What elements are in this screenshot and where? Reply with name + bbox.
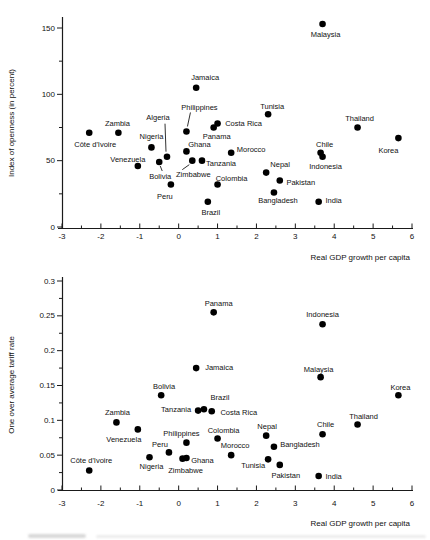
point-label-panama: Panama: [203, 132, 232, 141]
x-tick-label: 5: [371, 499, 376, 508]
x-axis-title: Real GDP growth per capita: [311, 253, 411, 262]
data-point-pakistan: [276, 462, 283, 469]
point-label-peru: Peru: [152, 440, 168, 449]
point-label-colombia: Colombia: [216, 174, 249, 183]
leader-line-algeria: [165, 124, 166, 152]
point-label-jamaica: Jamaica: [205, 363, 234, 372]
point-label-philippines: Philippines: [163, 429, 200, 438]
data-point-malaysia: [317, 374, 324, 381]
y-tick-label: 0.15: [39, 381, 55, 390]
data-point-thailand: [354, 421, 361, 428]
x-tick-label: 4: [332, 232, 337, 241]
point-label-philippines: Philippines: [181, 103, 218, 112]
data-point-bolivia: [156, 159, 163, 166]
point-label-morocco: Morocco: [221, 441, 250, 450]
point-label-malaysia: Malaysia: [311, 30, 341, 39]
data-point-jamaica: [193, 365, 200, 372]
data-point-bangladesh: [271, 189, 278, 196]
point-label-colombia: Colombia: [208, 426, 241, 435]
point-label-nepal: Nepal: [270, 160, 290, 169]
point-label-bangladesh: Bangladesh: [280, 440, 320, 449]
x-axis-title: Real GDP growth per capita: [311, 519, 411, 528]
data-point-zambia: [115, 130, 122, 137]
point-label-zimbabwe: Zimbabwe: [176, 170, 211, 179]
data-point-bangladesh: [271, 444, 278, 451]
x-tick-label: -3: [58, 232, 66, 241]
point-label-brazil: Brazil: [201, 208, 220, 217]
data-point-c-te-d-ivoire: [86, 130, 93, 137]
y-tick-label: 0.2: [44, 346, 56, 355]
point-label-bangladesh: Bangladesh: [258, 196, 298, 205]
point-label-india: India: [326, 196, 343, 205]
data-point-ghana: [183, 148, 190, 155]
data-point-chile: [319, 431, 326, 438]
point-label-peru: Peru: [157, 192, 173, 201]
x-tick-label: 3: [293, 232, 298, 241]
point-label-venezuela: Venezuela: [106, 435, 142, 444]
data-point-morocco: [228, 452, 235, 459]
point-label-tanzania: Tanzania: [161, 405, 192, 414]
x-tick-label: -2: [97, 232, 105, 241]
data-point-brazil: [205, 198, 212, 205]
y-tick-label: 0.05: [39, 451, 55, 460]
point-label-pakistan: Pakistan: [271, 471, 300, 480]
x-tick-label: 6: [410, 232, 415, 241]
data-point-venezuela: [135, 426, 142, 433]
point-label-zambia: Zambia: [105, 408, 131, 417]
data-point-korea: [395, 135, 402, 142]
point-label-indonesia: Indonesia: [306, 310, 339, 319]
point-label-chile: Chile: [316, 140, 333, 149]
data-point-brazil: [201, 406, 208, 413]
scatter-plots-canvas: -3-2-10123456050100150Real GDP growth pe…: [0, 0, 430, 540]
point-label-korea: Korea: [378, 146, 399, 155]
data-point-costa-rica: [214, 120, 221, 127]
point-label-tunisia: Tunisia: [241, 461, 266, 470]
point-label-nigeria: Nigeria: [140, 462, 165, 471]
data-point-tunisia: [265, 111, 272, 118]
cropped-caption-remnant: [28, 534, 86, 538]
point-label-tanzania: Tanzania: [206, 159, 237, 168]
point-label-thailand: Thailand: [345, 114, 374, 123]
data-point-tanzania: [195, 407, 202, 414]
data-point-indonesia: [319, 321, 326, 328]
leader-line-bolivia: [160, 166, 162, 171]
point-label-zambia: Zambia: [105, 119, 131, 128]
x-tick-label: 0: [176, 232, 181, 241]
point-label-panama: Panama: [205, 299, 234, 308]
x-tick-label: 2: [254, 232, 259, 241]
point-label-zimbabwe: Zimbabwe: [168, 466, 203, 475]
point-label-brazil: Brazil: [211, 393, 230, 402]
data-point-india: [315, 198, 322, 205]
data-point-peru: [168, 181, 175, 188]
x-tick-label: 6: [410, 499, 415, 508]
chart-bottom-tariff: -3-2-1012345600.050.10.150.20.250.3Real …: [7, 277, 415, 529]
data-point-nigeria: [148, 144, 155, 151]
x-tick-label: 5: [371, 232, 376, 241]
data-point-nepal: [263, 432, 270, 439]
point-label-costa-rica: Costa Rica: [225, 119, 263, 128]
x-tick-label: 2: [254, 499, 259, 508]
scatter-figure: -3-2-10123456050100150Real GDP growth pe…: [0, 0, 430, 540]
data-point-bolivia: [158, 392, 165, 399]
data-point-korea: [395, 392, 402, 399]
point-label-bolivia: Bolivia: [153, 382, 176, 391]
data-point-zambia: [113, 419, 120, 426]
data-point-ghana: [183, 455, 190, 462]
data-point-c-te-d-ivoire: [86, 467, 93, 474]
data-point-peru: [166, 449, 173, 456]
x-tick-label: -2: [97, 499, 105, 508]
point-label-pakistan: Pakistan: [286, 178, 315, 187]
point-label-ghana: Ghana: [191, 456, 214, 465]
point-label-c-te-d-ivoire: Côte d'Ivoire: [70, 456, 112, 465]
data-point-philippines: [183, 439, 190, 446]
point-label-thailand: Thailand: [349, 412, 378, 421]
leader-line-philippines: [187, 112, 190, 126]
point-label-malaysia: Malaysia: [304, 365, 334, 374]
x-tick-label: -1: [136, 499, 144, 508]
leader-line-zimbabwe: [182, 165, 189, 170]
data-point-tunisia: [265, 456, 272, 463]
chart-top-openness: -3-2-10123456050100150Real GDP growth pe…: [7, 17, 415, 262]
point-label-chile: Chile: [317, 420, 334, 429]
point-label-jamaica: Jamaica: [191, 73, 220, 82]
point-label-bolivia: Bolivia: [149, 172, 172, 181]
